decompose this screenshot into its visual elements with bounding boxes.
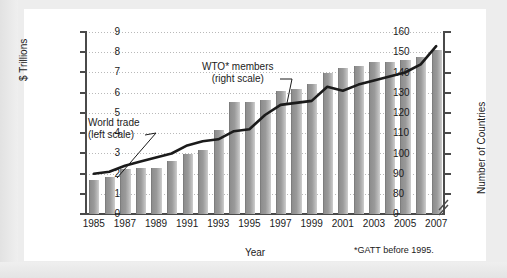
chart-screenshot: $ Trillions Number of Countries 01234567… [0,0,507,278]
chart-footnote: *GATT before 1995. [354,245,482,255]
chart-panel: $ Trillions Number of Countries 01234567… [24,9,486,261]
annotation-leader-lines [24,9,486,261]
